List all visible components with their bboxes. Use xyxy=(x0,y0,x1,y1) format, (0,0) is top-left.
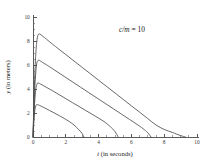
y-tick-label: 8 xyxy=(27,38,30,44)
chart-annotation: c/m = 10 xyxy=(119,25,145,34)
x-tick-label: 4 xyxy=(97,139,100,145)
plot-background xyxy=(0,0,207,162)
y-tick-label: 2 xyxy=(27,110,30,116)
x-tick-label: 10 xyxy=(194,139,200,145)
x-tick-label: 2 xyxy=(64,139,67,145)
chart-figure: 0246810 0246810 t (in seconds) y (in met… xyxy=(0,0,207,162)
y-tick-label: 0 xyxy=(27,134,30,140)
projectile-motion-chart: 0246810 0246810 t (in seconds) y (in met… xyxy=(0,0,207,162)
x-axis-title: t (in seconds) xyxy=(97,150,133,158)
y-tick-label: 10 xyxy=(24,14,30,20)
y-tick-label: 6 xyxy=(27,62,30,68)
x-tick-label: 8 xyxy=(163,139,166,145)
y-axis-title: y (in meters) xyxy=(4,60,12,94)
y-tick-label: 4 xyxy=(27,86,30,92)
x-tick-label: 0 xyxy=(32,139,35,145)
x-tick-label: 6 xyxy=(130,139,133,145)
